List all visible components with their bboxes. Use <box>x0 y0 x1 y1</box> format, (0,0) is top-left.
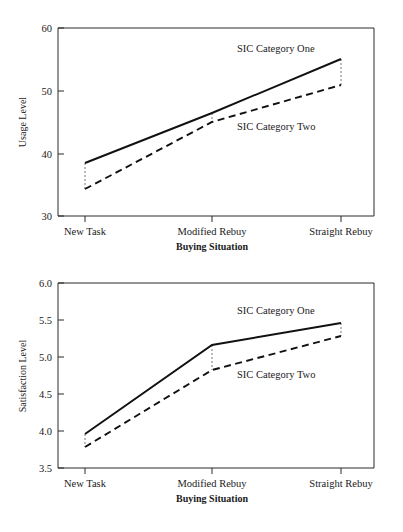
x-tick-label: Straight Rebuy <box>309 478 373 489</box>
y-tick-label: 4.5 <box>39 389 52 400</box>
y-tick-label: 60 <box>42 23 53 34</box>
x-axis-category-labels-bottom: New Task Modified Rebuy Straight Rebuy <box>64 478 373 489</box>
x-tick-label: New Task <box>64 478 107 489</box>
satisfaction-level-chart: 6.0 5.5 5.0 4.5 4.0 3.5 Satisfaction Lev… <box>0 266 403 532</box>
y-tick-label: 6.0 <box>39 278 52 289</box>
y-axis-tick-labels-bottom: 6.0 5.5 5.0 4.5 4.0 3.5 <box>39 278 52 474</box>
y-tick-label: 5.0 <box>39 352 52 363</box>
series-line-sic-category-two <box>85 336 341 447</box>
usage-level-plot: 60 50 40 30 Usage Level New Task Modifie… <box>0 0 403 266</box>
series-label-two: SIC Category Two <box>237 369 315 380</box>
y-axis-title: Satisfaction Level <box>17 340 28 413</box>
y-axis-ticks-top <box>58 28 64 216</box>
y-tick-label: 5.5 <box>39 315 52 326</box>
y-tick-label: 4.0 <box>39 426 52 437</box>
series-label-one: SIC Category One <box>237 305 315 316</box>
series-line-sic-category-two <box>85 85 341 189</box>
x-axis-category-labels-top: New Task Modified Rebuy Straight Rebuy <box>64 226 373 237</box>
satisfaction-level-plot: 6.0 5.5 5.0 4.5 4.0 3.5 Satisfaction Lev… <box>0 266 403 532</box>
series-label-one: SIC Category One <box>237 43 315 54</box>
y-tick-label: 3.5 <box>39 463 52 474</box>
x-axis-title: Buying Situation <box>176 493 248 504</box>
x-axis-ticks-bottom <box>85 468 341 474</box>
series-label-two: SIC Category Two <box>237 121 315 132</box>
usage-level-chart: 60 50 40 30 Usage Level New Task Modifie… <box>0 0 403 266</box>
x-axis-title: Buying Situation <box>176 241 248 252</box>
x-tick-label: Modified Rebuy <box>177 226 247 237</box>
series-line-sic-category-one <box>85 59 341 163</box>
y-axis-title: Usage Level <box>17 97 28 147</box>
plot-frame-bottom <box>58 283 374 468</box>
y-tick-label: 30 <box>42 211 53 222</box>
connector-lines-bottom <box>85 323 341 447</box>
x-axis-ticks-top <box>85 216 341 222</box>
plot-frame-top <box>58 28 374 216</box>
y-axis-ticks-bottom <box>58 283 64 468</box>
y-tick-label: 50 <box>42 86 53 97</box>
x-tick-label: Modified Rebuy <box>177 478 247 489</box>
y-tick-label: 40 <box>42 149 53 160</box>
x-tick-label: New Task <box>64 226 107 237</box>
y-axis-tick-labels-top: 60 50 40 30 <box>42 23 53 222</box>
x-tick-label: Straight Rebuy <box>309 226 373 237</box>
